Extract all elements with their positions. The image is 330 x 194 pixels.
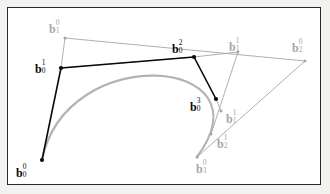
control-point-b3_0 xyxy=(196,156,199,159)
label-indices-b0_0: 00 xyxy=(23,165,29,177)
label-indices-b0_2: 20 xyxy=(179,41,185,53)
control-point-b0_2 xyxy=(192,55,196,59)
label-subscript-b0_3: 0 xyxy=(197,105,201,113)
label-base-b2_1: b xyxy=(217,137,224,151)
bezier-curve-group xyxy=(42,76,213,160)
label-base-b1_1: b xyxy=(229,40,236,54)
label-base-b1_0: b xyxy=(49,22,56,36)
label-indices-b1_1: 11 xyxy=(236,39,242,51)
label-base-b0_1: b xyxy=(35,62,42,76)
control-point-b2_1 xyxy=(210,133,213,136)
point-label-b1_0: b01 xyxy=(49,20,62,36)
cubic-bezier-curve xyxy=(42,76,213,160)
point-label-b0_0: b00 xyxy=(16,164,29,180)
figure-root: b00b10b20b30b01b11b11b02b12b03 xyxy=(0,0,330,194)
control-point-b2_0 xyxy=(304,60,307,63)
label-indices-b1_1b: 11 xyxy=(233,111,239,123)
label-base-b0_0: b xyxy=(16,166,23,180)
point-label-b3_0: b03 xyxy=(196,160,209,176)
control-point-b0_1 xyxy=(59,66,63,70)
label-indices-b2_0: 02 xyxy=(299,40,305,52)
label-subscript-b0_0: 0 xyxy=(23,171,27,179)
label-subscript-b1_1: 1 xyxy=(236,45,240,53)
label-subscript-b1_0: 1 xyxy=(56,27,60,35)
control-point-b1_1b xyxy=(220,110,223,113)
label-base-b3_0: b xyxy=(196,162,203,176)
point-label-b1_1: b11 xyxy=(229,38,242,54)
point-label-b2_0: b02 xyxy=(292,39,305,55)
label-base-b0_3: b xyxy=(190,100,197,114)
point-label-b0_2: b20 xyxy=(172,40,185,56)
label-indices-b0_3: 30 xyxy=(197,99,203,111)
control-point-b1_0 xyxy=(64,37,67,40)
point-label-b1_1b: b11 xyxy=(226,110,239,126)
label-subscript-b1_1b: 1 xyxy=(233,117,237,125)
label-subscript-b3_0: 3 xyxy=(203,167,207,175)
label-indices-b0_1: 10 xyxy=(42,61,48,73)
label-indices-b1_0: 01 xyxy=(56,21,62,33)
label-subscript-b0_2: 0 xyxy=(179,47,183,55)
label-subscript-b2_0: 2 xyxy=(299,46,303,54)
label-indices-b2_1: 12 xyxy=(224,136,230,148)
label-indices-b3_0: 03 xyxy=(203,161,209,173)
label-base-b0_2: b xyxy=(172,42,179,56)
label-subscript-b2_1: 2 xyxy=(224,142,228,150)
label-subscript-b0_1: 0 xyxy=(42,67,46,75)
point-label-b2_1: b12 xyxy=(217,135,230,151)
label-base-b1_1b: b xyxy=(226,112,233,126)
point-label-b0_1: b10 xyxy=(35,60,48,76)
label-base-b2_0: b xyxy=(292,41,299,55)
control-point-b0_0 xyxy=(40,158,44,162)
point-label-b0_3: b30 xyxy=(190,98,203,114)
control-point-b0_3 xyxy=(214,97,218,101)
